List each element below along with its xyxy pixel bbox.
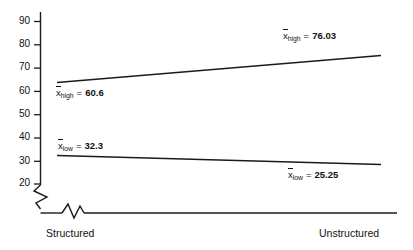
x-axis-line <box>41 204 398 218</box>
y-tick-label-20: 20 <box>8 178 30 188</box>
chart-canvas <box>0 0 413 250</box>
mean-label-low-structured: xlow=32.3 <box>58 141 103 152</box>
mean-value-high-left: 60.6 <box>85 87 104 98</box>
equals-high-right: = <box>304 30 310 41</box>
subscript-high-left: high <box>61 92 74 99</box>
y-tick-label-30: 30 <box>8 156 30 166</box>
y-tick-label-40: 40 <box>8 132 30 142</box>
y-tick-label-90: 90 <box>8 16 30 26</box>
equals-low-right: = <box>306 169 312 180</box>
mean-label-low-unstructured: xlow=25.25 <box>288 170 338 181</box>
subscript-low-right: low <box>293 174 303 181</box>
interaction-plot: 90 80 70 60 50 40 30 20 xhigh=60.6 xhigh… <box>0 0 413 250</box>
mean-value-high-right: 76.03 <box>312 30 336 41</box>
mean-label-high-unstructured: xhigh=76.03 <box>283 31 336 42</box>
equals-high-left: = <box>77 87 83 98</box>
y-tick-label-70: 70 <box>8 62 30 72</box>
x-axis-break-icon <box>62 204 84 218</box>
mean-label-high-structured: xhigh=60.6 <box>56 88 104 99</box>
x-axis-label-unstructured: Unstructured <box>319 228 379 239</box>
equals-low-left: = <box>76 140 82 151</box>
mean-value-low-right: 25.25 <box>315 169 339 180</box>
y-tick-label-50: 50 <box>8 109 30 119</box>
series-line-low <box>57 156 381 165</box>
y-tick-label-60: 60 <box>8 86 30 96</box>
x-axis-label-structured: Structured <box>46 228 94 239</box>
subscript-low-left: low <box>63 145 73 152</box>
y-axis-break-icon <box>34 185 47 209</box>
series-line-high <box>57 56 381 83</box>
mean-value-low-left: 32.3 <box>85 140 104 151</box>
subscript-high-right: high <box>288 35 301 42</box>
y-tick-label-80: 80 <box>8 39 30 49</box>
y-axis-ticks <box>34 22 41 185</box>
